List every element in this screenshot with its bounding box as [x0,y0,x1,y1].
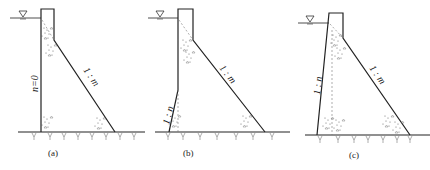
dam-outline [41,9,115,132]
dam-outline [169,9,265,132]
downstream-slope-label-a: 1 : m [81,65,102,88]
caption-b: (b) [183,148,194,158]
downstream-slope-label-c: 1 : m [367,63,388,86]
upstream-slope-label-a: n=0 [29,75,40,92]
gravity-dam-cross-sections-figure: n=0 1 : m (a) 1 : n 1 : m (b) 1 : n 1 : … [0,0,430,170]
caption-c: (c) [349,150,359,160]
caption-a: (a) [48,148,58,158]
upstream-slope-label-c: 1 : n [311,76,324,95]
panel-a [10,9,145,140]
downstream-slope-label-b: 1 : m [217,62,238,85]
dam-outline [317,13,410,135]
upstream-slope-label-b: 1 : n [160,105,175,125]
